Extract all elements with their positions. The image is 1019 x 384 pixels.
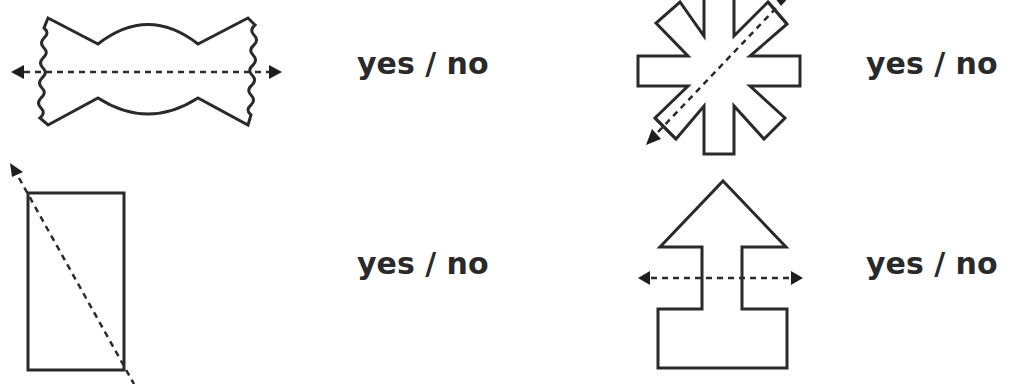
arrow-house-shape bbox=[658, 181, 787, 368]
arrowhead-left-icon bbox=[11, 65, 24, 79]
arrowhead-right-icon bbox=[791, 271, 803, 285]
snowflake-shape bbox=[638, 0, 800, 154]
arrowhead-right-icon bbox=[269, 65, 282, 79]
arrow-house-symmetry-line bbox=[638, 271, 803, 285]
arrowhead-up-left-icon bbox=[10, 163, 23, 177]
answer-choice-candy[interactable]: yes / no bbox=[357, 46, 489, 81]
answer-choice-snowflake[interactable]: yes / no bbox=[866, 46, 998, 81]
answer-choice-rectangle[interactable]: yes / no bbox=[357, 246, 489, 281]
arrowhead-up-right-icon bbox=[775, 0, 790, 6]
candy-symmetry-line bbox=[11, 65, 282, 79]
answer-choice-arrow-house[interactable]: yes / no bbox=[866, 246, 998, 281]
arrowhead-left-icon bbox=[638, 271, 650, 285]
snowflake-symmetry-line bbox=[646, 0, 790, 145]
